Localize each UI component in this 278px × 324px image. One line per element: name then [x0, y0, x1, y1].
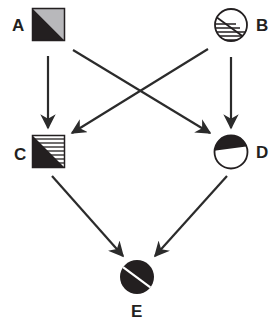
node-e-label: E: [131, 303, 142, 320]
node-b-circle-icon: [205, 9, 255, 45]
node-d-circle-icon: [205, 125, 260, 169]
node-e-circle-icon: [120, 260, 154, 294]
edge-d-to-e: [155, 176, 227, 256]
edge-c-to-e: [52, 176, 123, 256]
node-d-label: D: [256, 144, 268, 161]
node-c-square-icon: [32, 135, 65, 168]
pedigree-diagram: [0, 0, 278, 324]
node-b-label: B: [256, 17, 268, 34]
node-c-label: C: [14, 146, 26, 163]
edges: [48, 49, 231, 256]
node-a-label: A: [12, 17, 24, 34]
node-a-square-icon: [32, 8, 65, 41]
